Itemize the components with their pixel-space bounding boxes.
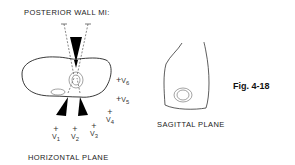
posterior-vector-arrow [70, 37, 82, 62]
horizontal-plane-caption: HORIZONTAL PLANE [28, 153, 109, 162]
figure-label: Fig. 4-18 [233, 81, 270, 91]
sagittal-infarct [174, 88, 192, 102]
lead-v4: + V4 [106, 108, 114, 126]
sagittal-plane-caption: SAGITTAL PLANE [157, 120, 225, 129]
lead-v2: + V2 [71, 125, 79, 143]
anterior-arrow-right [78, 97, 88, 116]
heart-horizontal-outline [22, 57, 111, 97]
anterior-arrow-left [56, 97, 68, 116]
lead-v6: +V6 [116, 76, 129, 87]
lead-v5: +V5 [116, 95, 129, 106]
lead-v1: + V1 [52, 125, 60, 143]
lead-v3: + V3 [90, 122, 98, 140]
infarct-region [51, 72, 83, 95]
